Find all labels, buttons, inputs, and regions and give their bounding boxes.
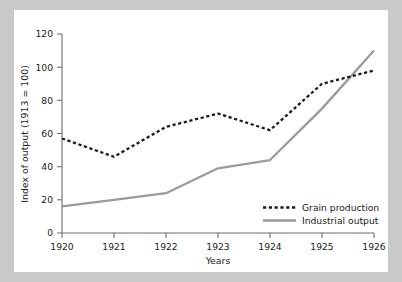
y-tick-label: 60 bbox=[41, 128, 53, 139]
series-line-industrial-output bbox=[62, 51, 374, 207]
x-axis-title: Years bbox=[205, 255, 231, 266]
legend-label-grain-production: Grain production bbox=[302, 202, 379, 213]
x-tick-label: 1925 bbox=[310, 241, 334, 252]
x-tick-label: 1922 bbox=[154, 241, 177, 252]
x-tick-label: 1921 bbox=[102, 241, 125, 252]
x-tick-label: 1923 bbox=[206, 241, 230, 252]
legend-label-industrial-output: Industrial output bbox=[302, 215, 379, 226]
x-tick-label: 1926 bbox=[362, 241, 386, 252]
x-tick-label: 1924 bbox=[258, 241, 282, 252]
y-tick-label: 0 bbox=[47, 227, 53, 238]
y-tick-label: 120 bbox=[35, 28, 53, 39]
y-tick-label: 80 bbox=[41, 95, 53, 106]
y-axis-ticks: 0 20 40 60 80 100 120 bbox=[35, 28, 62, 238]
x-axis-ticks: 1920 1921 1922 1923 1924 1925 1926 bbox=[50, 233, 386, 252]
series-line-grain-production bbox=[62, 70, 374, 156]
y-axis-title: Index of output (1913 = 100) bbox=[19, 65, 30, 203]
y-tick-label: 100 bbox=[35, 62, 53, 73]
y-tick-label: 40 bbox=[41, 161, 53, 172]
x-tick-label: 1920 bbox=[50, 241, 74, 252]
y-tick-label: 20 bbox=[41, 194, 53, 205]
chart-figure: 0 20 40 60 80 100 120 1920 1921 1922 192… bbox=[14, 10, 388, 272]
chart-legend: Grain production Industrial output bbox=[263, 202, 379, 226]
line-chart: 0 20 40 60 80 100 120 1920 1921 1922 192… bbox=[14, 10, 388, 272]
